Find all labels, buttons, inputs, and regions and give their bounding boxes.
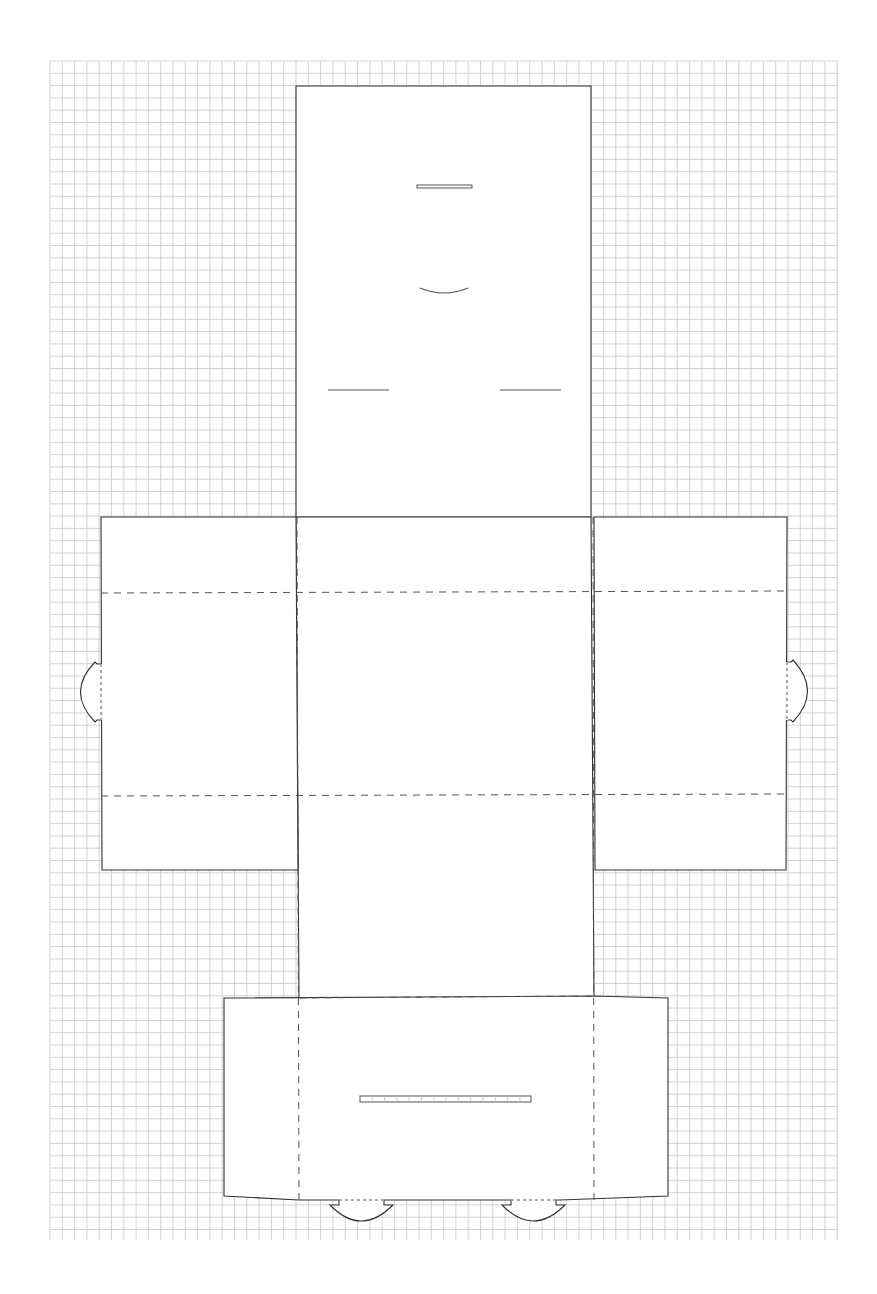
left-side-panel bbox=[101, 517, 298, 870]
box-die-line-template bbox=[0, 0, 877, 1294]
bottom-tab-left bbox=[330, 1200, 393, 1221]
top-lid-panel bbox=[296, 86, 591, 517]
right-side-panel bbox=[594, 517, 787, 870]
bottom-tab-right bbox=[502, 1200, 565, 1221]
center-body-panel bbox=[296, 517, 594, 998]
